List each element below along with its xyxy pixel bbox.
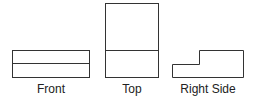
front-view [13,51,90,78]
top-label: Top [105,82,159,96]
right-side-label: Right Side [170,82,246,96]
top-view [106,4,159,78]
right-side-view [173,51,244,78]
front-label: Front [12,82,90,96]
